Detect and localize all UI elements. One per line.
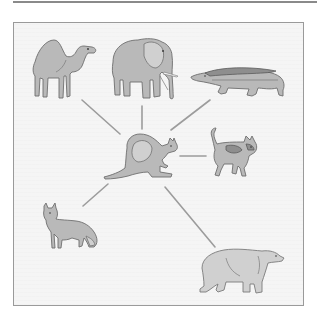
- connector-camel: [82, 100, 120, 134]
- kangaroo-illustration: [104, 134, 177, 179]
- elephant-illustration: [112, 39, 178, 99]
- connectors: [82, 100, 215, 247]
- cat-illustration: [211, 128, 256, 176]
- connector-crocodile: [171, 100, 210, 130]
- animal-diagram: [0, 0, 317, 315]
- polar-bear-illustration: [200, 249, 284, 293]
- connector-fox: [83, 184, 108, 206]
- connector-polar-bear: [165, 187, 215, 247]
- camel-illustration: [33, 40, 96, 98]
- crocodile-illustration: [191, 68, 284, 96]
- fox-illustration: [44, 203, 97, 248]
